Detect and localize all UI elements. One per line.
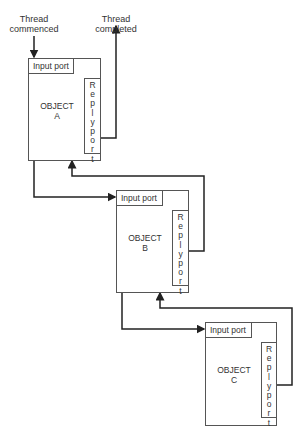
object-c-input-port: Input port <box>206 323 252 338</box>
object-a-input-port: Input port <box>29 59 74 74</box>
thread-commenced-label: Thread commenced <box>4 14 64 34</box>
reply-port-letter: t <box>173 287 188 296</box>
object-a-name-line1: OBJECT <box>40 101 74 111</box>
thread-commenced-line1: Thread <box>20 14 49 24</box>
thread-completed-arrow <box>100 26 116 138</box>
object-c-box: Input port OBJECT C Replyport <box>205 322 277 426</box>
object-b-name: OBJECT B <box>117 233 173 253</box>
object-b-reply-port: Replyport <box>172 210 189 286</box>
thread-completed-line2: completed <box>95 24 137 34</box>
object-b-input-port: Input port <box>117 191 163 206</box>
object-b-box: Input port OBJECT B Replyport <box>116 190 189 293</box>
thread-completed-label: Thread completed <box>88 14 144 34</box>
object-a-box: Input port OBJECT A Replyport <box>28 58 101 161</box>
thread-commenced-line2: commenced <box>9 24 58 34</box>
reply-port-letter: t <box>85 155 100 164</box>
object-c-reply-port: Replyport <box>261 342 277 418</box>
object-c-name: OBJECT C <box>206 365 262 385</box>
call-b-to-c-arrow <box>122 292 204 329</box>
reply-port-letter: t <box>262 419 276 428</box>
thread-completed-line1: Thread <box>102 14 131 24</box>
object-a-reply-port: Replyport <box>84 78 101 154</box>
object-b-name-line2: B <box>142 243 148 253</box>
object-a-name-line2: A <box>54 111 60 121</box>
object-c-name-line1: OBJECT <box>217 365 251 375</box>
object-b-name-line1: OBJECT <box>128 233 162 243</box>
call-a-to-b-arrow <box>34 160 115 197</box>
object-a-name: OBJECT A <box>29 101 85 121</box>
object-c-name-line2: C <box>231 375 237 385</box>
